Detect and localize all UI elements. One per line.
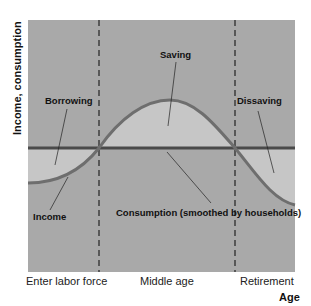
x-tick-retirement: Retirement bbox=[240, 275, 294, 287]
x-axis-title: Age bbox=[279, 291, 300, 303]
y-axis-title: Income, consumption bbox=[11, 21, 23, 135]
x-tick-middle-age: Middle age bbox=[140, 275, 194, 287]
x-tick-enter-labor-force: Enter labor force bbox=[26, 275, 107, 287]
label-dissaving: Dissaving bbox=[237, 95, 282, 106]
label-income: Income bbox=[33, 211, 66, 222]
label-consumption: Consumption (smoothed by households) bbox=[116, 207, 301, 218]
label-borrowing: Borrowing bbox=[45, 95, 93, 106]
life-cycle-chart: Borrowing Saving Dissaving Income Consum… bbox=[0, 0, 311, 306]
label-saving: Saving bbox=[160, 49, 191, 60]
